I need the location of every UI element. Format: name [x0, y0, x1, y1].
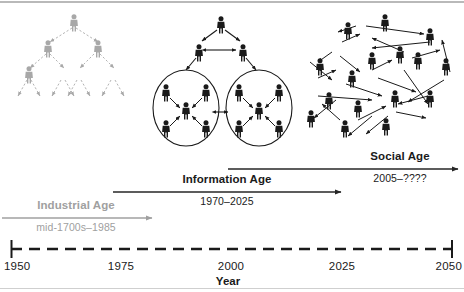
axis-tick-label-2050: 2050 [420, 261, 464, 273]
era-years-information: 1970–2025 [113, 196, 341, 207]
hybrid-top-links [186, 30, 256, 112]
era-label-social: Social Age [346, 151, 454, 163]
axis-tick-label-1950: 1950 [0, 261, 44, 273]
era-years-industrial: mid-1700s–1985 [0, 222, 152, 233]
era-years-social: 2005–???? [346, 173, 454, 184]
hierarchy-links [18, 28, 124, 96]
mesh-nodes [307, 14, 450, 137]
axis-tick-label-1975: 1975 [101, 261, 141, 273]
era-label-information: Information Age [113, 174, 341, 186]
hybrid-nodes [162, 16, 283, 137]
timeline-figure: Industrial Age mid-1700s–1985 Informatio… [0, 0, 464, 292]
axis-title-year: Year [196, 276, 260, 288]
year-axis [11, 240, 452, 258]
illustration-hybrid-clusters [153, 16, 292, 146]
hierarchy-nodes [25, 14, 102, 83]
axis-tick-label-2025: 2025 [322, 261, 362, 273]
axis-tick-label-2000: 2000 [211, 261, 251, 273]
illustration-mesh [307, 14, 450, 137]
figure-canvas [0, 0, 464, 292]
illustration-hierarchy [18, 14, 124, 96]
